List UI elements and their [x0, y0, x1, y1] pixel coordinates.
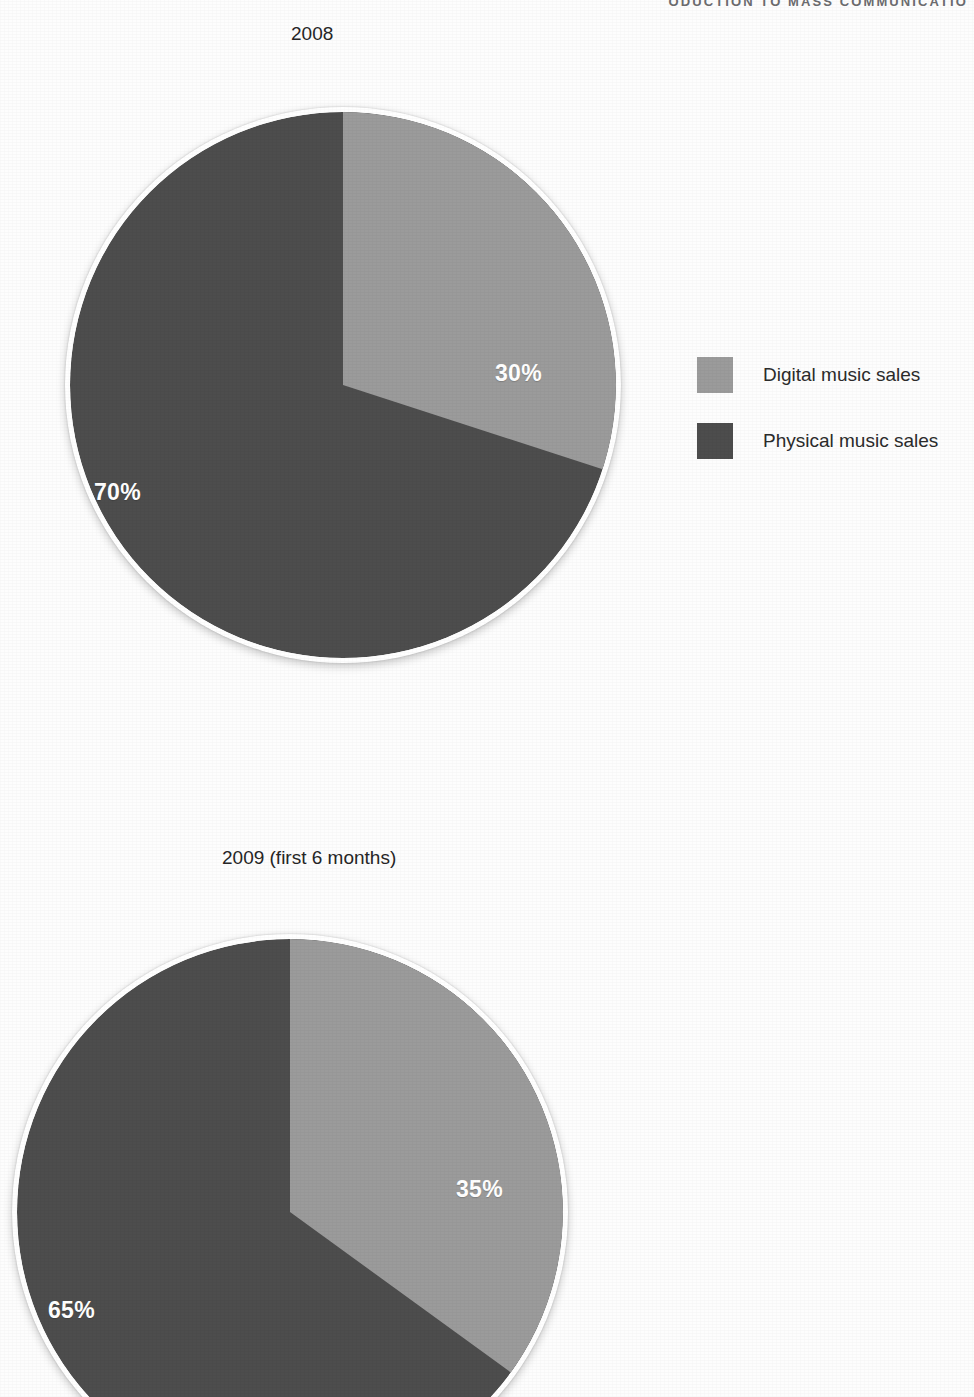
- chart-title: 2009 (first 6 months): [222, 847, 396, 869]
- slice-label-physical: 70%: [94, 479, 141, 506]
- slice-label-digital: 35%: [456, 1176, 503, 1203]
- pie-chart-2008: 30% 70%: [65, 107, 621, 663]
- pie-slices: [17, 939, 563, 1397]
- pie-svg: [17, 939, 563, 1397]
- legend-swatch-physical: [697, 423, 733, 459]
- pie-chart-2009: 35% 65%: [12, 934, 568, 1397]
- chart-title: 2008: [291, 23, 333, 45]
- legend-label-physical: Physical music sales: [763, 430, 938, 452]
- legend-swatch-digital: [697, 357, 733, 393]
- running-header: ODUCTION TO MASS COMMUNICATIO: [0, 0, 974, 9]
- slice-label-physical: 65%: [48, 1297, 95, 1324]
- legend-label-digital: Digital music sales: [763, 364, 920, 386]
- slice-label-digital: 30%: [495, 360, 542, 387]
- legend: Digital music sales Physical music sales: [697, 352, 974, 484]
- legend-item-physical[interactable]: Physical music sales: [697, 418, 974, 464]
- legend-item-digital[interactable]: Digital music sales: [697, 352, 974, 398]
